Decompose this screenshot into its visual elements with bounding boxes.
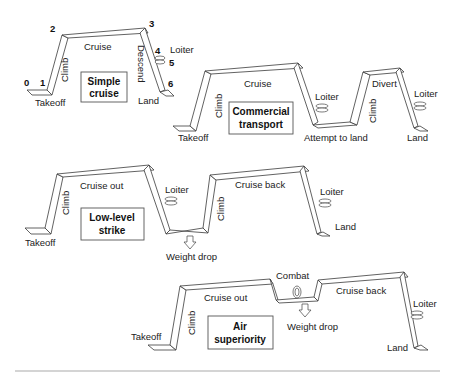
combat-down-segment bbox=[270, 279, 279, 303]
climb-segment bbox=[170, 286, 186, 350]
loiter-icon bbox=[319, 199, 331, 207]
label-cruise-back: Cruise back bbox=[235, 179, 285, 190]
label-attempt-to-land: Attempt to land bbox=[304, 132, 368, 143]
label-cruise: Cruise bbox=[244, 78, 271, 89]
attempt-land-segment bbox=[313, 122, 357, 128]
label-loiter: Loiter bbox=[413, 298, 437, 309]
label-climb: Climb bbox=[186, 311, 197, 335]
label-takeoff: Takeoff bbox=[178, 132, 209, 143]
loiter-icon bbox=[414, 102, 426, 110]
label-loiter: Loiter bbox=[170, 44, 194, 55]
point-5: 5 bbox=[169, 57, 175, 68]
mission-profiles-diagram: 0 1 2 3 4 5 6 Takeoff Climb Cruise Desce… bbox=[0, 0, 466, 377]
cruise-out-segment bbox=[57, 165, 154, 177]
label-loiter-2: Loiter bbox=[414, 88, 438, 99]
cruise-segment bbox=[62, 28, 148, 38]
loiter-icon bbox=[316, 104, 328, 112]
cruise-back-segment bbox=[210, 166, 309, 180]
profile-title-line2: strike bbox=[99, 225, 126, 236]
label-climb-2: Climb bbox=[367, 99, 378, 123]
point-3: 3 bbox=[149, 18, 154, 29]
label-cruise-out: Cruise out bbox=[204, 292, 248, 303]
weight-drop-arrow-icon bbox=[299, 304, 311, 317]
label-climb-2: Climb bbox=[215, 197, 226, 221]
label-loiter-1: Loiter bbox=[315, 91, 339, 102]
point-6: 6 bbox=[168, 78, 173, 89]
profile-title-line1: Low-level bbox=[89, 212, 135, 223]
low-level-segment bbox=[166, 228, 208, 234]
label-land: Land bbox=[138, 95, 159, 106]
label-takeoff: Takeoff bbox=[131, 331, 162, 342]
profile-low-level-strike: Takeoff Climb Cruise out Loiter Weight d… bbox=[25, 165, 356, 262]
point-0: 0 bbox=[24, 77, 29, 88]
label-land: Land bbox=[407, 132, 428, 143]
profile-air-superiority: Takeoff Climb Cruise out Combat Weight d… bbox=[131, 270, 437, 353]
point-4: 4 bbox=[155, 45, 161, 56]
cruise-segment bbox=[205, 63, 303, 74]
label-land: Land bbox=[335, 221, 356, 232]
loiter-icon bbox=[155, 56, 165, 64]
climb-segment bbox=[190, 71, 211, 131]
label-divert: Divert bbox=[372, 78, 397, 89]
label-cruise: Cruise bbox=[84, 41, 111, 52]
label-climb: Climb bbox=[213, 94, 224, 118]
label-cruise-back: Cruise back bbox=[336, 285, 386, 296]
label-weight-drop: Weight drop bbox=[166, 251, 217, 262]
point-2: 2 bbox=[50, 23, 55, 34]
label-descend: Descend bbox=[136, 45, 147, 83]
combat-loop-icon bbox=[293, 286, 301, 298]
profile-title-line2: transport bbox=[239, 119, 284, 130]
label-takeoff: Takeoff bbox=[25, 237, 56, 248]
profile-title-line1: Air bbox=[233, 321, 247, 332]
label-loiter-1: Loiter bbox=[165, 184, 189, 195]
profile-title-line1: Commercial bbox=[232, 106, 289, 117]
label-weight-drop: Weight drop bbox=[287, 321, 338, 332]
profile-title-line2: superiority bbox=[214, 334, 266, 345]
label-combat: Combat bbox=[276, 270, 310, 281]
cruise-back-segment bbox=[318, 272, 408, 284]
label-climb: Climb bbox=[59, 58, 70, 82]
profile-title-line1: Simple bbox=[88, 76, 121, 87]
weight-drop-arrow-icon bbox=[184, 236, 196, 249]
point-1: 1 bbox=[40, 77, 46, 88]
profile-simple-cruise: 0 1 2 3 4 5 6 Takeoff Climb Cruise Desce… bbox=[24, 18, 194, 108]
label-cruise-out: Cruise out bbox=[80, 180, 124, 191]
descend-segment bbox=[400, 272, 418, 348]
descend2-segment bbox=[300, 166, 321, 234]
profile-commercial-transport: Takeoff Climb Cruise Loiter Attempt to l… bbox=[173, 63, 438, 143]
label-climb: Climb bbox=[60, 191, 71, 215]
label-land: Land bbox=[387, 342, 408, 353]
label-takeoff: Takeoff bbox=[35, 97, 66, 108]
loiter-icon bbox=[411, 311, 423, 319]
loiter-icon bbox=[165, 197, 177, 205]
label-loiter-2: Loiter bbox=[320, 186, 344, 197]
cruise-out-segment bbox=[180, 279, 273, 290]
profile-title-line2: cruise bbox=[89, 88, 119, 99]
